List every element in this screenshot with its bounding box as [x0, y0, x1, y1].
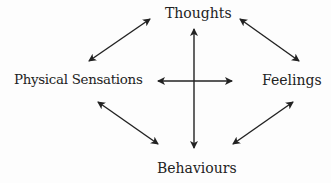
node-feelings: Feelings [262, 72, 322, 88]
node-behaviours: Behaviours [157, 160, 233, 176]
arrow-physical-behaviours [98, 102, 158, 144]
node-thoughts: Thoughts [165, 5, 225, 21]
arrow-thoughts-feelings [240, 19, 299, 61]
arrow-feelings-behaviours [233, 102, 293, 144]
arrows-layer [0, 0, 331, 183]
node-physical-sensations: Physical Sensations [14, 72, 142, 88]
arrow-thoughts-physical [89, 19, 150, 61]
cbt-diagram: Thoughts Physical Sensations Feelings Be… [0, 0, 331, 183]
